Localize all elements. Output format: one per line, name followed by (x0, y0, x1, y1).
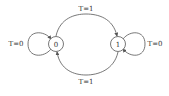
self-loop-0-label: T=0 (9, 40, 24, 48)
state-diagram: 0 1 T=1 T=1 T=0 T=0 (0, 0, 169, 96)
self-loop-0 (28, 33, 51, 55)
self-loop-1 (123, 33, 145, 55)
state-0-label: 0 (54, 41, 58, 49)
edge-1-to-0 (57, 52, 118, 75)
edge-0-to-1-label: T=1 (79, 5, 94, 13)
state-1-label: 1 (116, 41, 120, 49)
self-loop-1-label: T=0 (148, 40, 163, 48)
edge-1-to-0-label: T=1 (79, 78, 94, 86)
edge-0-to-1 (56, 14, 117, 36)
